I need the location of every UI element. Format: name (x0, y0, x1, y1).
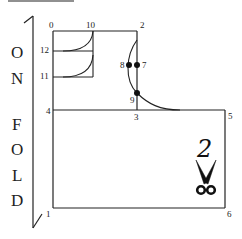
point-label-6: 6 (227, 209, 232, 219)
fold-letter: L (12, 166, 22, 185)
point-label-12: 12 (40, 45, 49, 55)
point-label-1: 1 (46, 209, 51, 219)
point-label-9: 9 (130, 95, 135, 105)
point-label-5: 5 (228, 111, 233, 121)
point-label-8: 8 (120, 60, 125, 70)
armhole-curve (128, 40, 180, 110)
fold-letter: O (11, 140, 23, 159)
scissors-icon (196, 160, 216, 194)
point-8-dot (126, 62, 132, 68)
fold-letter: D (11, 191, 23, 210)
collar-box (53, 31, 93, 77)
fold-letter: N (11, 69, 23, 88)
point-9-dot (134, 90, 140, 96)
pattern-diagram: O N F O L D 0 10 2 12 11 8 7 9 (0, 0, 242, 239)
point-label-7: 7 (142, 60, 147, 70)
point-label-0: 0 (49, 20, 54, 30)
point-7-dot (134, 62, 140, 68)
point-label-11: 11 (40, 71, 49, 81)
pattern-outline (53, 31, 225, 208)
fold-letter: O (11, 43, 23, 62)
point-label-2: 2 (140, 20, 145, 30)
point-label-3: 3 (134, 112, 139, 122)
fold-letter: F (12, 115, 21, 134)
point-label-4: 4 (46, 106, 51, 116)
piece-number: 2 (196, 135, 212, 163)
point-label-10: 10 (86, 20, 96, 30)
